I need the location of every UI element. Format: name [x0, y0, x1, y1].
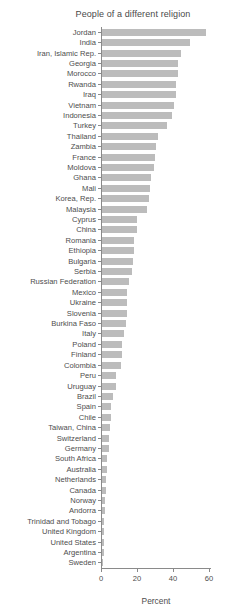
bar — [102, 320, 126, 327]
table-row: Uruguay — [0, 381, 232, 391]
country-label: Zambia — [0, 142, 98, 151]
bar — [102, 247, 134, 254]
table-row: Australia — [0, 464, 232, 474]
country-label: Ghana — [0, 173, 98, 182]
bar — [102, 435, 109, 442]
country-label: Romania — [0, 236, 98, 245]
table-row: United Kingdom — [0, 527, 232, 537]
chart-title: People of a different religion — [0, 0, 232, 19]
bar — [102, 372, 116, 379]
bar — [102, 403, 111, 410]
country-label: Malaysia — [0, 205, 98, 214]
bar — [102, 393, 113, 400]
x-axis-tick — [209, 569, 210, 572]
table-row: Rwanda — [0, 79, 232, 89]
plot-cell — [101, 329, 232, 339]
bar — [102, 424, 110, 431]
plot-cell — [101, 131, 232, 141]
country-label: Korea, Rep. — [0, 194, 98, 203]
country-label: United Kingdom — [0, 527, 98, 536]
country-label: Morocco — [0, 69, 98, 78]
country-label: Bulgaria — [0, 257, 98, 266]
plot-cell — [101, 152, 232, 162]
plot-cell — [101, 412, 232, 422]
country-label: Spain — [0, 402, 98, 411]
bar — [102, 330, 124, 337]
plot-cell — [101, 318, 232, 328]
country-label: Cyprus — [0, 215, 98, 224]
country-label: Burkina Faso — [0, 319, 98, 328]
table-row: Brazil — [0, 391, 232, 401]
bar — [102, 112, 172, 119]
plot-cell — [101, 485, 232, 495]
table-row: Spain — [0, 402, 232, 412]
table-row: Switzerland — [0, 433, 232, 443]
bar — [102, 455, 107, 462]
bar — [102, 518, 104, 525]
bar — [102, 102, 174, 109]
plot-cell — [101, 27, 232, 37]
bar — [102, 497, 105, 504]
plot-cell — [101, 464, 232, 474]
plot-cell — [101, 537, 232, 547]
x-axis-tick — [101, 569, 102, 572]
bar — [102, 559, 103, 566]
table-row: Iran, Islamic Rep. — [0, 48, 232, 58]
country-label: Mexico — [0, 288, 98, 297]
country-label: India — [0, 38, 98, 47]
bar — [102, 341, 122, 348]
country-label: Colombia — [0, 361, 98, 370]
table-row: Peru — [0, 370, 232, 380]
table-row: Colombia — [0, 360, 232, 370]
bar — [102, 226, 137, 233]
table-row: Moldova — [0, 162, 232, 172]
table-row: Norway — [0, 495, 232, 505]
plot-cell — [101, 110, 232, 120]
x-axis: 0204060 — [101, 568, 213, 594]
bar — [102, 143, 156, 150]
plot-cell — [101, 287, 232, 297]
table-row: Mali — [0, 183, 232, 193]
bar — [102, 216, 137, 223]
plot-cell — [101, 391, 232, 401]
table-row: Chile — [0, 412, 232, 422]
plot-cell — [101, 121, 232, 131]
country-label: Mali — [0, 184, 98, 193]
country-label: Netherlands — [0, 475, 98, 484]
country-label: Poland — [0, 340, 98, 349]
plot-cell — [101, 308, 232, 318]
table-row: Russian Federation — [0, 277, 232, 287]
plot-cell — [101, 246, 232, 256]
table-row: Argentina — [0, 547, 232, 557]
country-label: Australia — [0, 465, 98, 474]
table-row: Vietnam — [0, 100, 232, 110]
country-label: Rwanda — [0, 80, 98, 89]
table-row: Serbia — [0, 266, 232, 276]
x-axis-tick-label: 20 — [127, 574, 147, 583]
bar — [102, 237, 134, 244]
table-row: Malaysia — [0, 204, 232, 214]
bar — [102, 122, 167, 129]
x-axis-line — [101, 568, 211, 569]
plot-cell — [101, 100, 232, 110]
table-row: China — [0, 225, 232, 235]
country-label: Germany — [0, 444, 98, 453]
table-row: Cyprus — [0, 214, 232, 224]
bar — [102, 383, 116, 390]
bar — [102, 206, 147, 213]
country-label: United States — [0, 538, 98, 547]
table-row: Zambia — [0, 141, 232, 151]
country-label: Jordan — [0, 28, 98, 37]
plot-cell — [101, 58, 232, 68]
table-row: Trinidad and Tobago — [0, 516, 232, 526]
country-label: Uruguay — [0, 382, 98, 391]
country-label: Georgia — [0, 59, 98, 68]
table-row: Thailand — [0, 131, 232, 141]
bar — [102, 70, 178, 77]
table-row: Canada — [0, 485, 232, 495]
country-label: Iraq — [0, 90, 98, 99]
table-row: Slovenia — [0, 308, 232, 318]
plot-cell — [101, 204, 232, 214]
x-axis-label: Percent — [101, 596, 211, 606]
bar — [102, 299, 127, 306]
